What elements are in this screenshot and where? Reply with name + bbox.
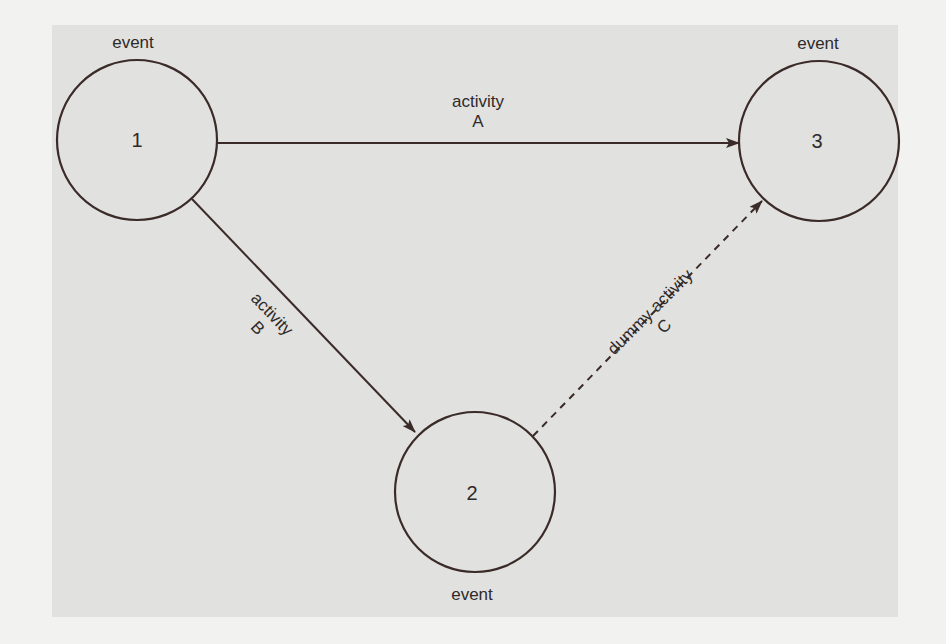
event-node-2: 2 event bbox=[395, 412, 555, 604]
event-label: event bbox=[797, 34, 839, 53]
event-number: 1 bbox=[131, 129, 142, 151]
event-number: 2 bbox=[466, 482, 477, 504]
event-node-3: 3 event bbox=[739, 34, 899, 221]
dummy-activity-c-label-line1: dummy activity bbox=[604, 265, 697, 358]
event-node-1: 1 event bbox=[57, 33, 217, 220]
edge-activity-b: activity B bbox=[192, 199, 415, 432]
activity-a-label-line1: activity bbox=[452, 92, 504, 111]
network-diagram: activity A activity B dummy activity C 1… bbox=[0, 0, 946, 644]
edge-dummy-activity-c: dummy activity C bbox=[533, 201, 762, 436]
activity-b-arrow bbox=[192, 199, 415, 432]
activity-a-label-line2: A bbox=[472, 112, 484, 131]
event-label: event bbox=[451, 585, 493, 604]
edge-activity-a: activity A bbox=[217, 92, 739, 143]
event-number: 3 bbox=[811, 130, 822, 152]
event-label: event bbox=[112, 33, 154, 52]
page-background: activity A activity B dummy activity C 1… bbox=[0, 0, 946, 644]
